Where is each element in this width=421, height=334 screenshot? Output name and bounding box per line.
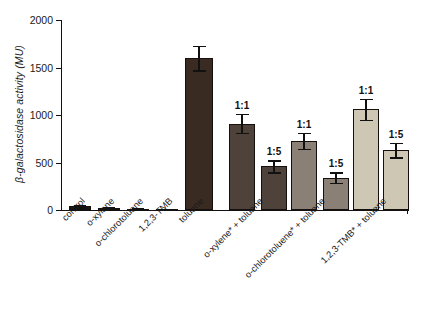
error-bar — [241, 114, 242, 133]
bar — [185, 58, 213, 210]
error-bar-cap-upper — [360, 99, 373, 100]
error-bar-cap-lower — [268, 172, 281, 173]
y-tick-mark — [56, 210, 61, 211]
error-bar — [365, 99, 366, 120]
bar-ratio-label: 1:1 — [359, 85, 373, 96]
error-bar-cap-lower — [298, 149, 311, 150]
error-bar-cap-lower — [193, 70, 206, 71]
bar-ratio-label: 1:1 — [297, 119, 311, 130]
y-tick-label: 1500 — [30, 62, 53, 74]
error-bar — [335, 172, 336, 182]
error-bar — [395, 143, 396, 157]
error-bar-cap-lower — [390, 157, 403, 158]
bar-ratio-label: 1:1 — [235, 100, 249, 111]
bar — [229, 124, 255, 210]
error-bar-cap-upper — [268, 160, 281, 161]
error-bar-cap-upper — [330, 172, 343, 173]
error-bar-cap-lower — [360, 120, 373, 121]
bar-ratio-label: 1:5 — [389, 129, 403, 140]
y-tick-label: 0 — [47, 204, 53, 216]
error-bar-cap-lower — [236, 133, 249, 134]
y-tick-mark — [56, 163, 61, 164]
y-tick-mark — [56, 68, 61, 69]
error-bar-cap-lower — [330, 183, 343, 184]
y-tick-label: 500 — [35, 157, 53, 169]
plot-area: 0500100015002000 1:11:51:11:51:11:5 — [61, 20, 409, 211]
x-axis-end-tick — [407, 210, 408, 214]
error-bar-cap-upper — [193, 46, 206, 47]
error-bar — [198, 46, 199, 71]
y-tick-label: 2000 — [30, 14, 53, 26]
y-tick-mark — [56, 115, 61, 116]
bar — [353, 109, 379, 210]
chart-figure: β-galactosidase activity (MU) 0500100015… — [0, 0, 421, 334]
x-axis-line — [61, 210, 409, 211]
y-axis-label: β-galactosidase activity (MU) — [13, 19, 25, 209]
error-bar — [273, 160, 274, 172]
bar — [291, 141, 317, 210]
y-axis-line — [61, 20, 62, 211]
bar-ratio-label: 1:5 — [329, 158, 343, 169]
error-bar-cap-upper — [236, 114, 249, 115]
error-bar-cap-upper — [298, 133, 311, 134]
bar-ratio-label: 1:5 — [267, 146, 281, 157]
y-tick-mark — [56, 20, 61, 21]
y-tick-label: 1000 — [30, 109, 53, 121]
error-bar — [303, 133, 304, 149]
error-bar-cap-upper — [390, 143, 403, 144]
